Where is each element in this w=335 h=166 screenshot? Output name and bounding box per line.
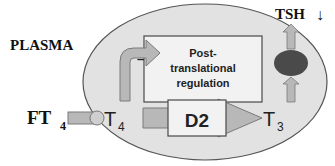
regulation-line2: translational (170, 62, 235, 74)
diagram-canvas: PLASMA FT 4 T 4 T 3 D2 Post- translation… (0, 0, 335, 166)
regulation-line3: regulation (176, 77, 229, 89)
target-cell-oval (274, 50, 308, 76)
ft4-label: FT (27, 107, 52, 128)
tsh-down-arrow-icon: ↓ (316, 6, 324, 23)
plasma-label: PLASMA (10, 37, 74, 53)
t4-label: T (104, 108, 116, 130)
transporter-icon (90, 111, 104, 125)
regulation-line1: Post- (189, 47, 217, 59)
t3-label: T (263, 108, 275, 130)
t3-subscript: 3 (277, 120, 284, 134)
tsh-label: TSH (275, 6, 305, 22)
inhibition-sign: – (137, 51, 144, 66)
t4-subscript: 4 (118, 120, 125, 134)
d2-label: D2 (185, 110, 209, 131)
ft4-subscript: 4 (60, 119, 66, 133)
